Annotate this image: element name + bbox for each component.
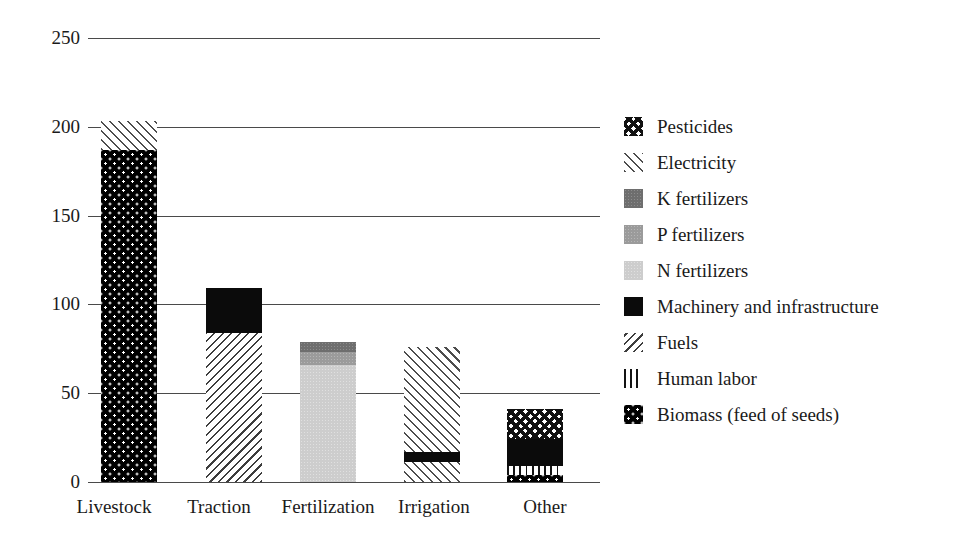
legend-swatch-icon xyxy=(624,153,643,172)
legend-swatch-icon xyxy=(624,189,643,208)
gridline-150 xyxy=(88,216,600,217)
plot-area: 050100150200250LivestockTractionFertiliz… xyxy=(0,0,620,546)
gridline-100 xyxy=(88,304,600,305)
legend-item-fuels[interactable]: Fuels xyxy=(624,324,954,360)
y-axis-tick-label: 200 xyxy=(52,117,81,136)
legend-swatch-icon xyxy=(624,297,643,316)
bar-segment-fertilization-k-fertilizers xyxy=(300,342,356,353)
bar-segment-livestock-biomass-feed-of-seeds xyxy=(101,150,157,482)
bar-other xyxy=(507,409,563,482)
legend-swatch-icon xyxy=(624,225,643,244)
bar-livestock xyxy=(101,121,157,482)
x-axis-tick-label: Other xyxy=(455,496,635,518)
bar-segment-livestock-electricity xyxy=(101,121,157,149)
legend-item-p-fertilizers[interactable]: P fertilizers xyxy=(624,216,954,252)
legend-item-label: Electricity xyxy=(657,152,736,173)
chart-legend: PesticidesElectricityK fertilizersP fert… xyxy=(624,108,954,432)
legend-item-n-fertilizers[interactable]: N fertilizers xyxy=(624,252,954,288)
legend-item-label: Biomass (feed of seeds) xyxy=(657,404,839,425)
gridline-250 xyxy=(88,38,600,39)
bar-segment-other-human-labor xyxy=(507,466,563,475)
bar-fertilization xyxy=(300,342,356,482)
legend-item-machinery-and-infrastructure[interactable]: Machinery and infrastructure xyxy=(624,288,954,324)
y-axis-tick-label: 250 xyxy=(52,28,81,47)
legend-item-label: Machinery and infrastructure xyxy=(657,296,879,317)
legend-swatch-icon xyxy=(624,117,643,136)
bar-segment-traction-fuels xyxy=(206,333,262,482)
legend-item-label: N fertilizers xyxy=(657,260,748,281)
legend-swatch-icon xyxy=(624,261,643,280)
bar-segment-other-biomass-feed-of-seeds xyxy=(507,475,563,482)
y-axis-tick-label: 50 xyxy=(61,383,80,402)
stacked-bar-chart-figure: 050100150200250LivestockTractionFertiliz… xyxy=(0,0,958,546)
legend-swatch-icon xyxy=(624,333,643,352)
bar-segment-fertilization-p-fertilizers xyxy=(300,352,356,364)
bar-segment-irrigation-machinery-and-infrastructure xyxy=(404,452,460,463)
legend-item-label: Fuels xyxy=(657,332,698,353)
bar-irrigation xyxy=(404,347,460,482)
y-axis-tick-label: 100 xyxy=(52,294,81,313)
gridline-200 xyxy=(88,127,600,128)
legend-item-label: Pesticides xyxy=(657,116,733,137)
bar-segment-irrigation-electricity xyxy=(404,347,460,452)
legend-swatch-icon xyxy=(624,405,643,424)
y-axis-tick-label: 150 xyxy=(52,206,81,225)
legend-item-k-fertilizers[interactable]: K fertilizers xyxy=(624,180,954,216)
legend-item-label: P fertilizers xyxy=(657,224,744,245)
bar-segment-fertilization-n-fertilizers xyxy=(300,365,356,482)
y-axis-tick-label: 0 xyxy=(71,472,81,491)
legend-item-label: K fertilizers xyxy=(657,188,748,209)
legend-item-biomass-feed-of-seeds[interactable]: Biomass (feed of seeds) xyxy=(624,396,954,432)
legend-item-pesticides[interactable]: Pesticides xyxy=(624,108,954,144)
bar-segment-traction-machinery-and-infrastructure xyxy=(206,288,262,332)
legend-item-electricity[interactable]: Electricity xyxy=(624,144,954,180)
legend-swatch-icon xyxy=(624,369,643,388)
bar-segment-other-pesticides xyxy=(507,409,563,439)
x-axis-line xyxy=(88,482,600,483)
bar-segment-irrigation-electricity xyxy=(404,462,460,482)
legend-item-human-labor[interactable]: Human labor xyxy=(624,360,954,396)
bar-segment-other-machinery-and-infrastructure xyxy=(507,439,563,466)
bar-traction xyxy=(206,288,262,482)
legend-item-label: Human labor xyxy=(657,368,757,389)
